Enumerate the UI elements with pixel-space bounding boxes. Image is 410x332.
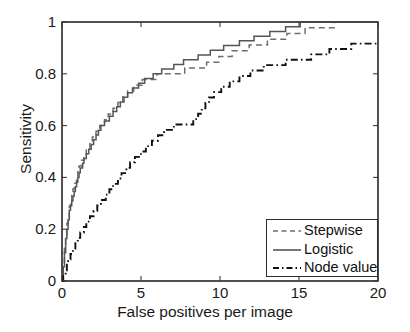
legend-key-stepwise bbox=[271, 221, 303, 240]
legend-label-logistic: Logistic bbox=[304, 240, 353, 259]
x-tick-label-2: 10 bbox=[197, 284, 243, 301]
x-tick-label-4: 20 bbox=[355, 284, 401, 301]
legend-item-stepwise: Stepwise bbox=[267, 221, 379, 240]
y-axis-label: Sensitivity bbox=[17, 59, 35, 219]
legend-key-logistic bbox=[271, 240, 303, 259]
legend-label-stepwise: Stepwise bbox=[304, 221, 363, 240]
legend-key-node-value bbox=[271, 258, 303, 277]
x-tick-label-1: 5 bbox=[118, 284, 164, 301]
y-tick-label-1: 0.2 bbox=[12, 220, 56, 237]
froc-chart bbox=[0, 0, 410, 332]
legend-item-logistic: Logistic bbox=[267, 240, 379, 259]
x-tick-label-3: 15 bbox=[276, 284, 322, 301]
y-tick-label-0: 0 bbox=[12, 272, 56, 289]
y-tick-label-2: 0.4 bbox=[12, 168, 56, 185]
chart-legend: Stepwise Logistic Node value bbox=[266, 219, 378, 277]
y-tick-label-4: 0.8 bbox=[12, 65, 56, 82]
y-tick-label-5: 1 bbox=[12, 13, 56, 30]
legend-item-node-value: Node value bbox=[267, 258, 379, 277]
legend-label-node-value: Node value bbox=[304, 258, 377, 277]
x-axis-label: False positives per image bbox=[0, 303, 410, 321]
y-tick-label-3: 0.6 bbox=[12, 117, 56, 134]
